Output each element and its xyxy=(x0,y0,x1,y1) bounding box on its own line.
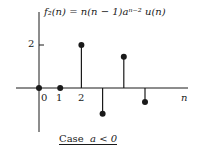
stem-point xyxy=(142,99,148,105)
y-tick-label: 2 xyxy=(28,38,34,49)
stems xyxy=(36,42,148,117)
stem-point xyxy=(78,42,84,48)
caption-prefix: Case xyxy=(59,133,84,144)
stem-point xyxy=(57,85,63,91)
caption: Case a < 0 xyxy=(59,133,117,145)
stem-point xyxy=(100,111,106,117)
stem-point xyxy=(121,54,127,60)
x-tick-label-0: 0 xyxy=(41,92,47,103)
x-tick-label-2: 2 xyxy=(78,92,84,103)
stem-plot xyxy=(0,0,200,154)
x-tick-label-1: 1 xyxy=(56,92,62,103)
caption-expr: a < 0 xyxy=(90,133,117,144)
x-axis-label: n xyxy=(181,92,187,103)
stem-point xyxy=(36,85,42,91)
